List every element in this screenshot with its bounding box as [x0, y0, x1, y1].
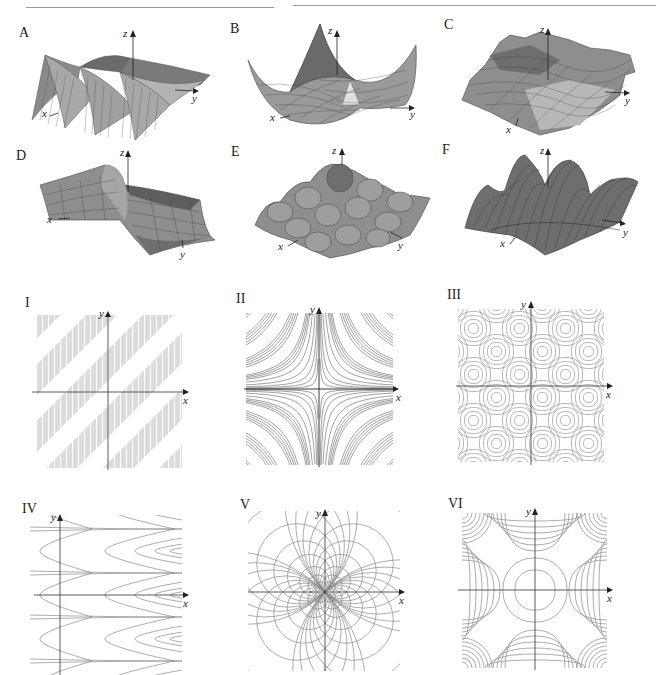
y-arrow-icon: [532, 508, 538, 515]
z-axis-label: z: [119, 146, 125, 158]
y-arrow-icon: [57, 514, 63, 521]
surface-plot-b: B z x y: [220, 20, 440, 150]
y-arrow-icon: [105, 311, 111, 317]
contour-plot-iii: III x y: [430, 255, 656, 475]
x-axis-label: x: [182, 597, 188, 609]
contour-plot-v: V x y: [220, 475, 440, 675]
x-axis-label: x: [605, 388, 611, 400]
contour-plot-ii: II x y: [220, 255, 440, 475]
surface-plot-e: E z x y: [220, 140, 440, 260]
z-arrow-icon: [545, 148, 551, 155]
x-axis-label: x: [41, 107, 47, 119]
surface-f-graphic: z x y: [430, 140, 656, 260]
contour-iii-graphic: x y: [430, 255, 656, 475]
surface-c-graphic: z x y: [430, 20, 656, 150]
contour-iv-graphic: x y: [0, 475, 220, 675]
z-arrow-icon: [125, 150, 131, 157]
surface-plot-d: D z x y: [0, 140, 220, 260]
contour-plot-i: I x y: [0, 255, 220, 475]
x-axis-label: x: [46, 213, 52, 225]
contour-i-graphic: x y: [0, 255, 220, 475]
surface-d-graphic: z x y: [0, 140, 220, 260]
x-axis-label: x: [395, 391, 401, 403]
x-axis-label: x: [505, 123, 511, 135]
z-axis-label: z: [122, 27, 128, 39]
y-axis-label: y: [309, 303, 315, 315]
contour-v-graphic: x y: [220, 475, 440, 675]
z-arrow-icon: [339, 148, 345, 155]
surface-b-graphic: z x y: [220, 20, 440, 150]
contour-vi-graphic: x y: [430, 475, 656, 675]
x-axis-label: x: [606, 592, 612, 604]
z-axis-label: z: [327, 24, 333, 36]
contour-plot-iv: IV x y: [0, 475, 220, 675]
contour-plot-vi: VI x y: [430, 475, 656, 675]
z-axis-label: z: [331, 144, 337, 156]
y-arrow-icon: [528, 301, 534, 308]
surface-plot-c: C z x y: [430, 20, 656, 150]
y-axis-label: y: [409, 108, 415, 120]
y-axis-label: y: [397, 239, 403, 251]
z-axis-label: z: [539, 144, 545, 156]
y-axis-label: y: [622, 226, 628, 238]
y-axis-label: y: [624, 94, 630, 106]
x-axis-label: x: [269, 111, 275, 123]
y-axis-label: y: [191, 92, 197, 104]
x-axis-label: x: [182, 394, 188, 406]
y-axis-label: y: [315, 507, 321, 519]
y-axis-label: y: [525, 505, 531, 517]
x-axis-label: x: [398, 594, 404, 606]
header-rule-right: [293, 5, 656, 6]
contour-ii-graphic: x y: [220, 255, 440, 475]
x-axis-label: x: [277, 240, 283, 252]
z-arrow-icon: [545, 28, 551, 35]
y-axis-label: y: [98, 307, 104, 319]
header-rule-left: [26, 7, 274, 8]
surface-a-graphic: z x y: [0, 20, 220, 150]
x-axis-label: x: [499, 237, 505, 249]
z-arrow-icon: [130, 30, 136, 37]
surface-e-graphic: z x y: [220, 140, 440, 260]
y-axis-label: y: [50, 511, 56, 523]
surface-plot-f: F z x y: [430, 140, 656, 260]
z-axis-label: z: [539, 23, 545, 35]
y-arrow-icon: [316, 307, 322, 314]
surface-plot-a: A z x y: [0, 20, 220, 150]
y-axis-label: y: [520, 298, 526, 310]
z-arrow-icon: [334, 30, 340, 37]
